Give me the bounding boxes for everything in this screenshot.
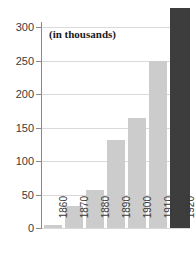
ytick-250: 250: [0, 56, 34, 67]
tickmark-200: [36, 94, 41, 95]
xlabel-1870: 1870: [79, 196, 90, 236]
chart-annotation: (in thousands): [49, 28, 116, 40]
ytick-label-50: 50: [4, 190, 34, 201]
ytick-label-250: 250: [4, 56, 34, 67]
xlabel-1910: 1910: [163, 196, 174, 236]
bar-1920: [170, 8, 190, 228]
y-axis-line: [41, 22, 42, 229]
ytick-label-100: 100: [4, 156, 34, 167]
ytick-label-200: 200: [4, 89, 34, 100]
x-axis-labels: 1860 1870 1880 1890 1900 1910 1920: [0, 228, 196, 276]
tickmark-150: [36, 128, 41, 129]
xlabel-1880: 1880: [100, 196, 111, 236]
tickmark-300: [36, 27, 41, 28]
tickmark-100: [36, 161, 41, 162]
xlabel-1920: 1920: [185, 196, 196, 236]
xlabel-1900: 1900: [142, 196, 153, 236]
tickmark-50: [36, 195, 41, 196]
ytick-label-300: 300: [4, 22, 34, 33]
ytick-200: 200: [0, 89, 34, 100]
ytick-150: 150: [0, 123, 34, 134]
ytick-300: 300: [0, 22, 34, 33]
ytick-50: 50: [0, 190, 34, 201]
ytick-100: 100: [0, 156, 34, 167]
xlabel-1860: 1860: [58, 196, 69, 236]
xlabel-1890: 1890: [121, 196, 132, 236]
tickmark-250: [36, 61, 41, 62]
bar-chart: 300 250 200 150 100 50 0 (in thousands) …: [0, 0, 196, 276]
ytick-label-150: 150: [4, 123, 34, 134]
